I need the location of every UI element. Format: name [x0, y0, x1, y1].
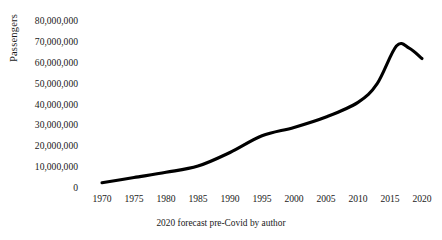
plot-area — [0, 0, 442, 240]
chart-figure: Passengers 010,000,00020,000,00030,000,0… — [0, 0, 442, 240]
figure-caption: 2020 forecast pre-Covid by author — [0, 218, 442, 228]
data-series-line — [102, 43, 422, 182]
